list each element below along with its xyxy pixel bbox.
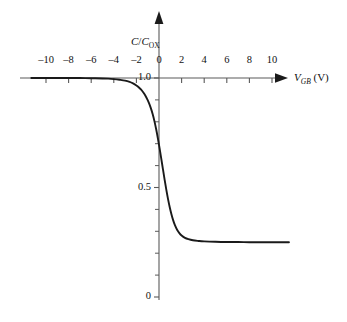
chart-svg — [0, 0, 347, 322]
x-axis-arrow-icon — [275, 73, 288, 83]
y-tick-label: 0 — [117, 291, 151, 302]
figure-canvas: C/COX VGB (V) –10–8–6–4–20246810 00.51.0 — [0, 0, 347, 322]
y-axis-major-ticks — [154, 78, 159, 297]
x-axis-title-unit: (V) — [313, 71, 328, 83]
y-axis-arrow-icon — [155, 11, 164, 24]
y-tick-label: 1.0 — [117, 72, 151, 83]
cv-curve — [31, 78, 289, 242]
x-axis-title-subscript: GB — [301, 77, 311, 86]
y-axis-title-denominator: C — [141, 35, 148, 47]
x-axis-title: VGB (V) — [294, 72, 329, 83]
y-axis-title-subscript: OX — [149, 41, 160, 50]
x-axis-title-symbol: V — [294, 71, 301, 83]
y-axis-title: C/COX — [131, 36, 160, 47]
x-tick-label: 10 — [258, 55, 286, 66]
y-tick-label: 0.5 — [117, 182, 151, 193]
